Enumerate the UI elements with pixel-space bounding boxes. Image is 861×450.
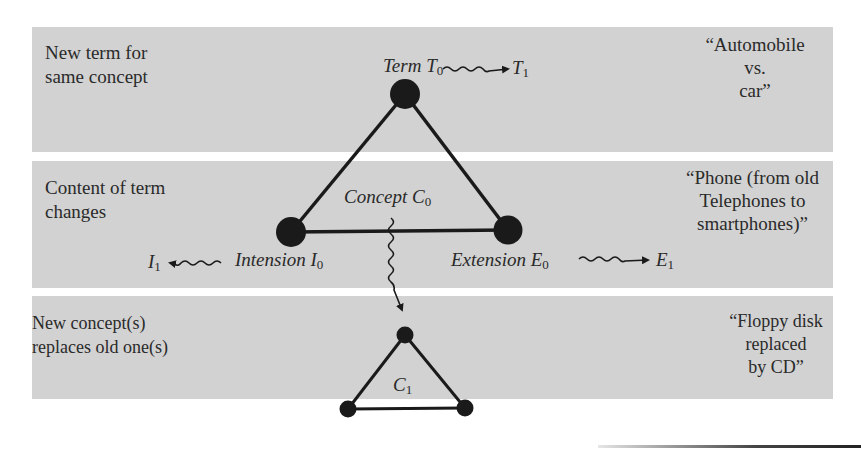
label-intension-i0: Intension I0 xyxy=(235,249,323,276)
label-subscript: 1 xyxy=(523,65,530,80)
label-word: Concept xyxy=(344,186,412,207)
label-symbol: E xyxy=(531,249,543,270)
squiggle-arrow-extension-change xyxy=(579,257,648,262)
label-concept-c0: Concept C0 xyxy=(344,186,431,213)
label-subscript: 0 xyxy=(425,194,432,209)
label-term-t0: Term T0 xyxy=(383,55,443,82)
label-intension-i1: I1 xyxy=(148,251,161,278)
edge-c1-right xyxy=(405,335,465,408)
bottom-rule xyxy=(598,445,861,448)
label-term-t1: T1 xyxy=(512,57,529,84)
label-extension-e1: E1 xyxy=(656,249,674,276)
node-c1-right xyxy=(457,400,474,417)
label-subscript: 1 xyxy=(406,382,413,397)
node-c1-top xyxy=(397,327,414,344)
label-concept-c1: C1 xyxy=(393,374,412,401)
node-extension xyxy=(494,216,523,245)
label-subscript: 0 xyxy=(542,257,549,272)
squiggle-arrow-intension-change xyxy=(170,261,221,265)
label-symbol: C xyxy=(393,374,406,395)
label-symbol: C xyxy=(412,186,425,207)
edge-intension-extension xyxy=(291,230,508,232)
node-c1-left xyxy=(340,401,357,418)
label-symbol: T xyxy=(512,57,523,78)
node-intension xyxy=(276,217,306,247)
node-term xyxy=(390,79,420,109)
label-word: Extension xyxy=(451,249,531,270)
label-subscript: 0 xyxy=(317,257,324,272)
edge-c1-bottom xyxy=(348,408,465,409)
squiggle-arrow-term-change xyxy=(443,67,508,72)
label-extension-e0: Extension E0 xyxy=(451,249,549,276)
label-word: Term xyxy=(383,55,426,76)
label-subscript: 0 xyxy=(437,63,444,78)
label-symbol: E xyxy=(656,249,668,270)
label-symbol: T xyxy=(426,55,437,76)
label-subscript: 1 xyxy=(668,257,675,272)
label-subscript: 1 xyxy=(154,259,161,274)
label-word: Intension xyxy=(235,249,310,270)
